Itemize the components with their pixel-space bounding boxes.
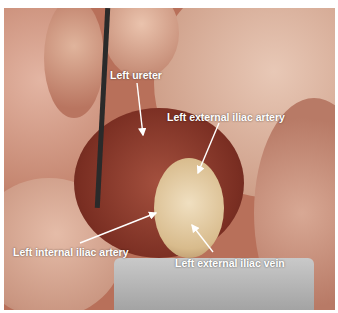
label-left-internal-iliac-artery: Left internal iliac artery (13, 246, 129, 258)
label-left-external-iliac-artery: Left external iliac artery (167, 111, 285, 123)
label-left-ureter: Left ureter (110, 69, 162, 81)
surgical-photo (4, 8, 335, 310)
iliac-vessels (154, 158, 224, 258)
label-left-external-iliac-vein: Left external iliac vein (175, 257, 285, 269)
